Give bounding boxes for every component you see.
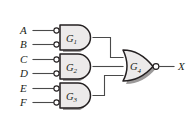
input-label-e: E bbox=[20, 82, 27, 94]
logic-circuit-diagram: G 1 G 2 G 3 G 4 bbox=[0, 0, 192, 127]
input-label-d: D bbox=[20, 67, 28, 79]
wire-g1-to-g4 bbox=[93, 38, 123, 58]
gate-g1-subscript: 1 bbox=[74, 38, 78, 46]
gate-g1[interactable]: G 1 bbox=[54, 25, 91, 52]
input-wires bbox=[33, 31, 55, 103]
gate-g3-input-bubble-e bbox=[54, 86, 59, 91]
gate-g2-input-bubble-c bbox=[54, 57, 59, 62]
gate-g2-subscript: 2 bbox=[74, 67, 78, 75]
input-label-b: B bbox=[20, 38, 27, 50]
gate-g4-output-bubble bbox=[153, 64, 159, 70]
wire-g3-to-g4 bbox=[93, 76, 123, 96]
gate-g1-input-bubble-a bbox=[54, 28, 59, 33]
gate-g1-input-bubble-b bbox=[54, 42, 59, 47]
output-label-x: X bbox=[178, 60, 185, 72]
input-label-a: A bbox=[20, 24, 27, 36]
gate-g4-subscript: 4 bbox=[138, 67, 142, 75]
gate-g4-body bbox=[123, 50, 153, 81]
gate-g3-input-bubble-f bbox=[54, 100, 59, 105]
gate-g3[interactable]: G 3 bbox=[54, 83, 91, 110]
gate-g4[interactable]: G 4 bbox=[123, 50, 159, 84]
gate-g2-input-bubble-d bbox=[54, 71, 59, 76]
input-label-f: F bbox=[20, 96, 27, 108]
gate-g3-subscript: 3 bbox=[73, 96, 78, 104]
interconnect-wires bbox=[93, 38, 123, 96]
input-label-c: C bbox=[20, 53, 27, 65]
circuit-canvas: G 1 G 2 G 3 G 4 bbox=[0, 0, 192, 127]
gate-g2[interactable]: G 2 bbox=[54, 54, 91, 81]
